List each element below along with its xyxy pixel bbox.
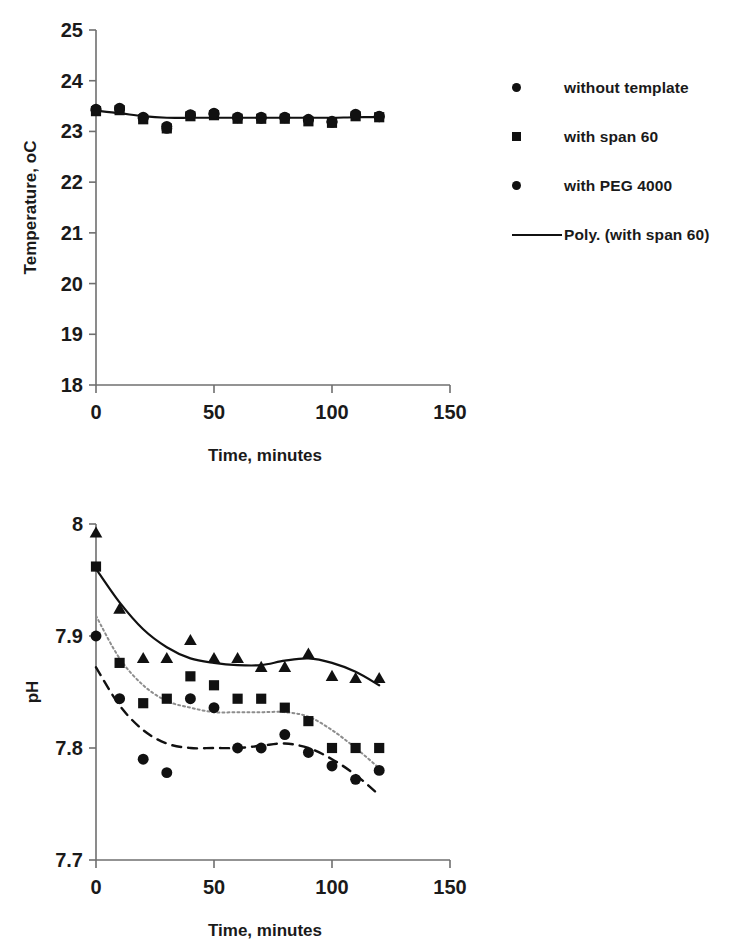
legend-marker-circle-icon [512, 181, 521, 190]
y-tick-label: 7.8 [55, 737, 83, 759]
data-point [374, 765, 385, 776]
legend-item-label: Poly. (with span 60) [564, 225, 710, 244]
data-point [231, 652, 244, 663]
x-tick-label: 150 [433, 401, 466, 423]
data-point [209, 702, 220, 713]
legend-key [508, 176, 564, 195]
data-point [91, 561, 101, 571]
data-point [256, 743, 267, 754]
data-point [185, 109, 196, 120]
data-point [138, 754, 149, 765]
data-point [326, 670, 339, 681]
data-point [185, 693, 196, 704]
data-point [256, 112, 267, 123]
data-point [114, 693, 125, 704]
data-point [373, 672, 386, 683]
data-point [303, 114, 314, 125]
x-axis-title: Time, minutes [208, 446, 322, 465]
x-tick-label: 0 [90, 401, 101, 423]
data-point [350, 774, 361, 785]
x-axis-title: Time, minutes [208, 921, 322, 940]
legend-key [508, 127, 564, 146]
data-point [161, 121, 172, 132]
y-tick-label: 23 [61, 120, 83, 142]
data-point [91, 631, 102, 642]
data-point [279, 112, 290, 123]
data-point [208, 652, 221, 663]
legend-marker-square-icon [512, 132, 521, 141]
data-point [232, 743, 243, 754]
data-point [302, 647, 315, 658]
data-point [232, 112, 243, 123]
ph-plot-area: 7.77.87.98050100150Time, minutespH [0, 480, 508, 951]
data-point [138, 112, 149, 123]
data-point [280, 703, 290, 713]
data-point [351, 743, 361, 753]
x-tick-label: 100 [315, 401, 348, 423]
data-point [138, 698, 148, 708]
legend-item-label: with PEG 4000 [564, 176, 672, 195]
data-point [209, 680, 219, 690]
legend-item-label: without template [564, 78, 689, 97]
legend-line-solid-icon [512, 234, 562, 236]
data-point [374, 743, 384, 753]
x-tick-label: 0 [90, 876, 101, 898]
data-point [184, 634, 197, 645]
data-point [91, 104, 102, 115]
x-tick-label: 50 [203, 876, 225, 898]
legend-key [508, 225, 564, 244]
data-point [327, 760, 338, 771]
data-point [350, 109, 361, 120]
temperature-legend: without templatewith span 60with PEG 400… [508, 78, 710, 244]
data-point [162, 694, 172, 704]
data-point [374, 111, 385, 122]
y-tick-label: 24 [61, 70, 84, 92]
data-point [233, 694, 243, 704]
legend-item[interactable]: with PEG 4000 [508, 176, 710, 195]
ph-chart: 7.77.87.98050100150Time, minutespH witho… [0, 480, 751, 951]
x-tick-label: 100 [315, 876, 348, 898]
y-tick-label: 8 [72, 513, 83, 535]
data-point [115, 658, 125, 668]
y-tick-label: 18 [61, 374, 83, 396]
fit-curve [96, 569, 379, 685]
x-tick-label: 50 [203, 401, 225, 423]
data-series [90, 526, 386, 683]
legend-key [508, 78, 564, 97]
x-tick-label: 150 [433, 876, 466, 898]
data-point [256, 694, 266, 704]
data-point [279, 729, 290, 740]
legend-item[interactable]: without template [508, 78, 710, 97]
legend-item[interactable]: with span 60 [508, 127, 710, 146]
legend-item[interactable]: Poly. (with span 60) [508, 225, 710, 244]
data-point [185, 671, 195, 681]
y-tick-label: 20 [61, 273, 83, 295]
data-point [90, 526, 103, 537]
y-axis-title: Temperature, oC [21, 141, 40, 275]
data-point [327, 116, 338, 127]
data-point [303, 747, 314, 758]
y-tick-label: 7.7 [55, 849, 83, 871]
data-point [160, 652, 173, 663]
data-point [209, 108, 220, 119]
data-point [303, 716, 313, 726]
legend-marker-circle-icon [512, 83, 521, 92]
data-point [114, 103, 125, 114]
y-axis-title: pH [23, 681, 42, 704]
fit-curve [96, 667, 379, 795]
y-tick-label: 19 [61, 323, 83, 345]
legend-item-label: with span 60 [564, 127, 658, 146]
data-point [137, 652, 150, 663]
y-tick-label: 21 [61, 222, 83, 244]
temperature-plot-area: 1819202122232425050100150Time, minutesTe… [0, 0, 508, 480]
y-tick-label: 7.9 [55, 625, 83, 647]
data-point [327, 743, 337, 753]
data-point [161, 767, 172, 778]
temperature-chart: 1819202122232425050100150Time, minutesTe… [0, 0, 751, 480]
y-tick-label: 22 [61, 171, 83, 193]
y-tick-label: 25 [61, 19, 83, 41]
